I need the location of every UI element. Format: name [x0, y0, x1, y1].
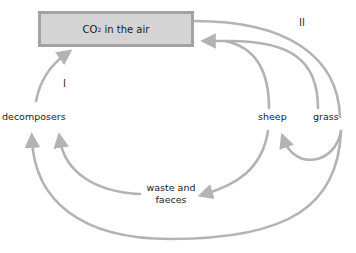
arrow-waste-to-decomposers	[60, 140, 140, 194]
co2-in-air-box: CO2 in the air	[38, 11, 194, 47]
node-decomposers: decomposers	[2, 111, 66, 123]
node-waste-and-faeces: waste and faeces	[143, 182, 199, 206]
waste-line-1: waste and	[143, 182, 199, 194]
node-grass: grass	[313, 111, 339, 123]
carbon-cycle-diagram: CO2 in the air I II decomposers sheep gr…	[0, 0, 356, 253]
arrow-grass-to-sheep	[284, 131, 341, 160]
waste-line-2: faeces	[143, 194, 199, 206]
cycle-label-ii: II	[299, 17, 305, 28]
arrow-sheep-to-co2	[225, 41, 269, 108]
cycle-label-i: I	[63, 78, 66, 89]
node-sheep: sheep	[258, 111, 287, 123]
co2-suffix: in the air	[101, 24, 149, 35]
co2-prefix: CO	[83, 24, 98, 35]
arrow-decomposers-to-co2	[36, 54, 66, 101]
arrow-sheep-to-waste	[205, 131, 268, 194]
